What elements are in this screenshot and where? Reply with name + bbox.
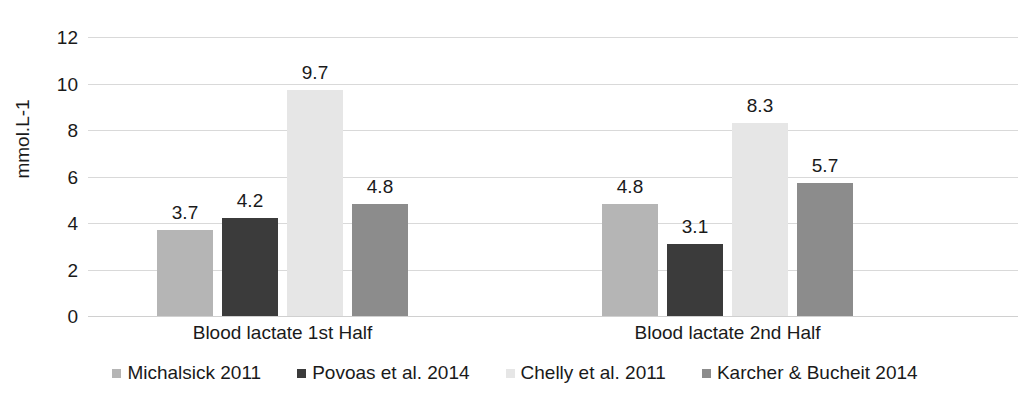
legend-item: Michalsick 2011 [112,362,261,384]
legend-item: Karcher & Bucheit 2014 [702,362,918,384]
bar [732,123,788,316]
bar [352,204,408,316]
bar [157,230,213,316]
y-tick-label: 4 [8,214,78,233]
bar-value-label: 4.8 [367,177,393,196]
legend-item: Chelly et al. 2011 [506,362,666,384]
legend-swatch-icon [506,369,515,378]
legend-label: Chelly et al. 2011 [521,362,666,384]
y-tick-label: 0 [8,307,78,326]
bar [287,90,343,316]
y-tick-label: 12 [8,28,78,47]
gridline [88,177,1018,178]
y-tick-label: 2 [8,260,78,279]
gridline [88,130,1018,131]
plot-area: 3.74.29.74.84.83.18.35.7 [88,37,1018,316]
bar-value-label: 9.7 [302,63,328,82]
y-tick-label: 6 [8,167,78,186]
x-axis-label: Blood lactate 1st Half [193,322,373,344]
x-axis-label: Blood lactate 2nd Half [635,322,821,344]
bar [222,218,278,316]
y-tick-label: 10 [8,74,78,93]
legend-item: Povoas et al. 2014 [297,362,469,384]
y-axis-ticks: 121086420 [0,37,78,316]
bar-value-label: 3.1 [682,217,708,236]
bar-value-label: 4.2 [237,191,263,210]
legend-swatch-icon [112,369,121,378]
legend-label: Michalsick 2011 [127,362,261,384]
legend-swatch-icon [702,369,711,378]
legend-label: Karcher & Bucheit 2014 [717,362,918,384]
y-tick-label: 8 [8,121,78,140]
gridline [88,37,1018,38]
gridline [88,316,1018,317]
bar-value-label: 5.7 [812,156,838,175]
bar-chart: mmol.L-1 121086420 3.74.29.74.84.83.18.3… [0,0,1030,413]
bar [602,204,658,316]
legend-label: Povoas et al. 2014 [312,362,469,384]
gridline [88,84,1018,85]
bar-value-label: 8.3 [747,96,773,115]
bar-value-label: 3.7 [172,203,198,222]
legend: Michalsick 2011Povoas et al. 2014Chelly … [0,362,1030,384]
bar-value-label: 4.8 [617,177,643,196]
bar [667,244,723,316]
legend-swatch-icon [297,369,306,378]
bar [797,183,853,316]
